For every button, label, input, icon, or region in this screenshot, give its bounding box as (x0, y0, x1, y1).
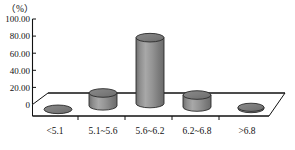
y-tick-label-100: 100.00 (5, 14, 30, 24)
bar-3-cap (136, 33, 164, 42)
bar-1-cap (44, 105, 72, 114)
bar-2-cap (89, 89, 117, 98)
bar-cylinder-4 (183, 91, 211, 112)
x-tick-label-4: 6.2~6.8 (183, 126, 212, 136)
x-tick-label-3: 5.6~6.2 (136, 126, 165, 136)
bar-4-cap (183, 91, 211, 100)
y-tick-label-60: 60.00 (10, 49, 31, 59)
bar-5-cap (238, 103, 264, 111)
y-tick-label-20: 20.00 (10, 83, 31, 93)
y-tick-label-0: 0 (26, 100, 31, 110)
y-tick-label-40: 40.00 (10, 66, 31, 76)
bar-cylinder-2 (89, 89, 117, 110)
y-tick-label-80: 80.00 (10, 31, 31, 41)
y-axis-unit-label: （%） (6, 3, 34, 14)
chart-canvas: （%） 100.00 80.00 60.00 40.00 20.00 0 (0, 0, 295, 150)
bar-chart: （%） 100.00 80.00 60.00 40.00 20.00 0 (0, 0, 295, 150)
bar-3-body (136, 38, 164, 108)
bar-cylinder-5 (238, 103, 264, 112)
bar-cylinder-1 (44, 105, 72, 114)
bar-cylinder-3 (136, 33, 164, 107)
x-tick-label-5: >6.8 (238, 126, 255, 136)
x-tick-label-2: 5.1~5.6 (89, 126, 118, 136)
x-tick-label-1: <5.1 (46, 126, 63, 136)
